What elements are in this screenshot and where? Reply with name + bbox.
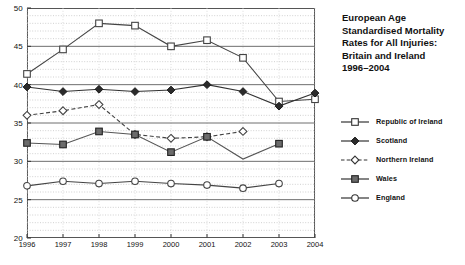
chart-legend: Republic of IrelandScotlandNorthern Irel…	[338, 112, 465, 207]
legend-item-scotland[interactable]: Scotland	[338, 131, 465, 150]
y-tick-30: 30	[14, 157, 23, 166]
legend-item-wales[interactable]: Wales	[338, 169, 465, 188]
x-tick-1996: 1996	[19, 240, 36, 249]
x-tick-2002: 2002	[235, 240, 252, 249]
legend-marker-open-square-icon	[340, 116, 370, 128]
chart-title-line-3: Britain and Ireland	[342, 50, 464, 63]
legend-label: Republic of Ireland	[376, 117, 443, 126]
plot-area	[27, 8, 315, 238]
y-tick-40: 40	[14, 80, 23, 89]
legend-label: Northern Ireland	[376, 155, 434, 164]
x-axis-tick-labels: 199619971998199920002001200220032004	[27, 240, 315, 254]
y-tick-25: 25	[14, 195, 23, 204]
legend-item-republic-of-ireland[interactable]: Republic of Ireland	[338, 112, 465, 131]
legend-label: Scotland	[376, 136, 407, 145]
series-england	[24, 178, 283, 192]
x-tick-2000: 2000	[163, 240, 180, 249]
x-tick-2004: 2004	[307, 240, 324, 249]
chart-screenshot: 20253035404550 1996199719981999200020012…	[0, 0, 465, 265]
legend-marker-open-diamond-icon	[340, 154, 370, 166]
chart-title-line-1: Standardised Mortality	[342, 25, 464, 38]
y-axis-tick-labels: 20253035404550	[0, 8, 23, 238]
chart-title-line-2: Rates for All Injuries:	[342, 37, 464, 50]
chart-title-line-0: European Age	[342, 12, 464, 25]
legend-item-northern-ireland[interactable]: Northern Ireland	[338, 150, 465, 169]
legend-label: England	[376, 193, 405, 202]
right-panel: European AgeStandardised MortalityRates …	[338, 0, 465, 265]
x-tick-1998: 1998	[91, 240, 108, 249]
chart-title: European AgeStandardised MortalityRates …	[342, 12, 464, 75]
legend-marker-filled-diamond-icon	[340, 135, 370, 147]
legend-marker-open-circle-icon	[340, 192, 370, 204]
data-series-layer	[27, 8, 315, 238]
x-tick-1997: 1997	[55, 240, 72, 249]
x-tick-2001: 2001	[199, 240, 216, 249]
legend-marker-filled-square-icon	[340, 173, 370, 185]
legend-item-england[interactable]: England	[338, 188, 465, 207]
x-tick-2003: 2003	[271, 240, 288, 249]
y-tick-50: 50	[14, 4, 23, 13]
y-tick-35: 35	[14, 119, 23, 128]
chart-title-line-4: 1996–2004	[342, 62, 464, 75]
y-tick-45: 45	[14, 42, 23, 51]
x-tick-1999: 1999	[127, 240, 144, 249]
legend-label: Wales	[376, 174, 397, 183]
